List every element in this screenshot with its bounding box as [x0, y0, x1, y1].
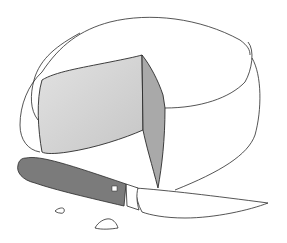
cut-face-front	[38, 55, 143, 154]
knife-rivet	[112, 186, 117, 191]
crumb-small	[55, 208, 64, 213]
knife-blade	[135, 188, 268, 218]
knife-handle	[18, 157, 126, 206]
cheese-knife	[18, 157, 268, 218]
wheel-right-rim	[165, 42, 252, 108]
cut-face-side	[142, 55, 165, 188]
wheel-rind-top	[31, 80, 38, 120]
cheese-crumbs	[55, 208, 118, 229]
crumb-large	[95, 219, 118, 229]
cheese-illustration: Cheese wheel with a wedge cut out and a …	[0, 0, 287, 243]
knife-bolster	[126, 184, 139, 210]
